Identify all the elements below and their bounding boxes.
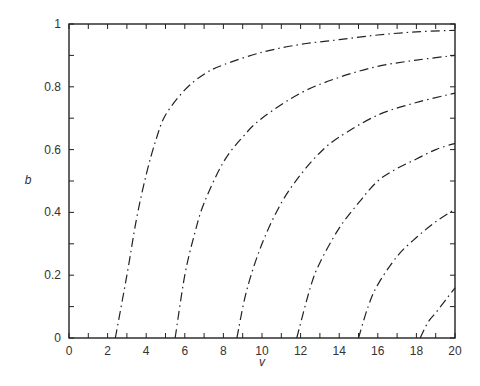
axis-ticks: [69, 24, 455, 338]
series-line-curve-3: [237, 93, 455, 338]
y-tick-labels: 00.20.40.60.81: [44, 17, 61, 345]
x-tick-label: 8: [220, 344, 227, 358]
series-line-curve-6: [420, 288, 455, 338]
x-tick-label: 4: [143, 344, 150, 358]
x-tick-label: 12: [294, 344, 308, 358]
x-tick-label: 18: [410, 344, 424, 358]
plot-border: [69, 24, 455, 338]
chart: 02468101214161820 00.20.40.60.81 v b: [0, 0, 480, 386]
x-tick-label: 0: [66, 344, 73, 358]
plot-frame: [69, 24, 455, 338]
x-tick-label: 6: [181, 344, 188, 358]
series-line-curve-4: [297, 143, 455, 338]
series-group: [115, 30, 455, 338]
x-tick-label: 16: [371, 344, 385, 358]
x-tick-label: 14: [333, 344, 347, 358]
y-tick-label: 1: [54, 17, 61, 31]
series-line-curve-5: [359, 209, 456, 338]
y-tick-label: 0.4: [44, 205, 61, 219]
y-axis-label: b: [25, 173, 32, 187]
y-tick-label: 0.8: [44, 80, 61, 94]
series-line-curve-2: [175, 55, 455, 338]
y-tick-label: 0.6: [44, 143, 61, 157]
x-axis-label: v: [259, 355, 266, 369]
y-tick-label: 0: [54, 331, 61, 345]
y-tick-label: 0.2: [44, 268, 61, 282]
series-line-curve-1: [115, 30, 455, 338]
x-tick-label: 2: [104, 344, 111, 358]
x-tick-label: 20: [448, 344, 462, 358]
